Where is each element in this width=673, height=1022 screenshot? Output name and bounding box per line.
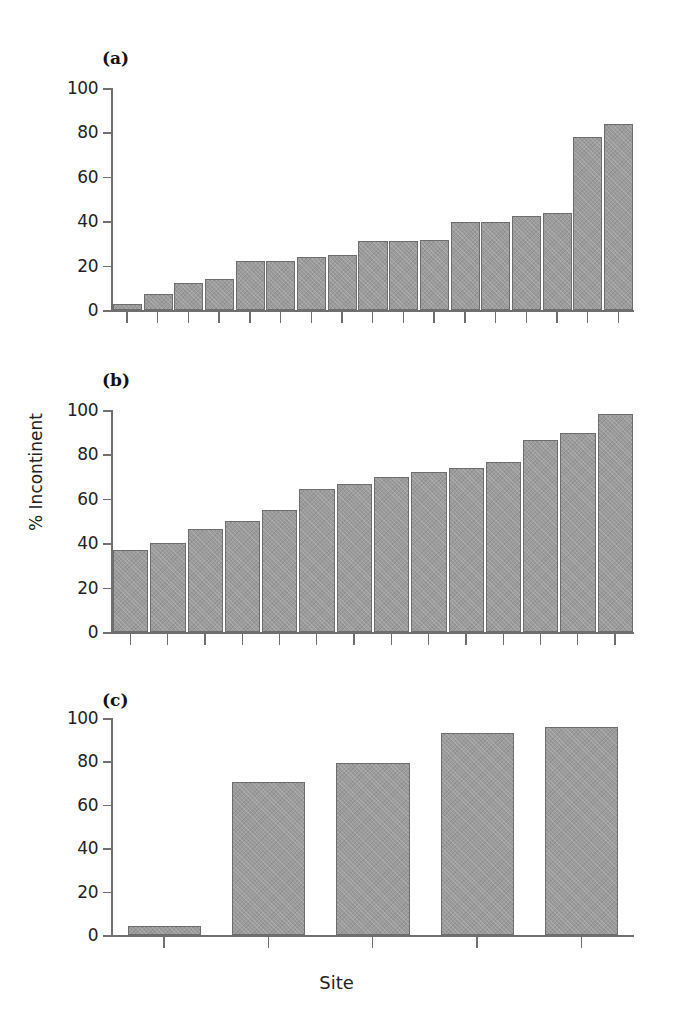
bar [174,283,203,310]
x-tick-mark [503,634,504,645]
bar [336,763,409,936]
y-tick-mark [103,805,112,807]
x-tick-mark [279,634,280,645]
x-tick-mark [403,312,404,323]
y-tick-mark [103,221,112,223]
panel-b: (b)020406080100 [0,362,673,662]
bar [441,733,514,935]
bar [328,255,357,311]
x-tick-mark [341,312,342,323]
x-tick-mark [188,312,189,323]
y-tick-mark [103,848,112,850]
x-tick-mark [428,634,429,645]
bar [545,727,618,935]
panel-label-a: (a) [102,48,129,68]
y-tick-label: 60 [46,489,98,509]
bar [604,124,633,310]
y-tick-label: 0 [46,622,98,642]
figure-bar-chart-incontinence: (a)020406080100 (b)020406080100 (c)02040… [0,0,673,1022]
bar [297,257,326,310]
y-tick-label: 0 [46,300,98,320]
x-tick-mark [577,634,578,645]
x-tick-mark [130,634,131,645]
y-tick-label: 0 [46,925,98,945]
bar [337,484,372,632]
x-tick-mark [372,312,373,323]
x-tick-mark [540,634,541,645]
bar [225,521,260,632]
y-tick-label: 100 [46,400,98,420]
y-tick-mark [103,310,112,312]
y-tick-mark [103,410,112,412]
bar [449,468,484,632]
y-tick-label: 40 [46,533,98,553]
y-tick-label: 100 [46,78,98,98]
x-tick-mark [618,312,619,323]
x-tick-mark [526,312,527,323]
bar [543,213,572,310]
bar-series [112,410,634,632]
y-tick-mark [103,266,112,268]
bar [205,279,234,310]
bar [150,543,185,632]
x-tick-mark [280,312,281,323]
x-tick-mark [587,312,588,323]
x-axis-spine [111,632,634,634]
bar [374,477,409,632]
panel-label-c: (c) [102,690,128,710]
y-axis-label: % Incontinent [26,392,46,552]
y-tick-label: 80 [46,751,98,771]
x-tick-mark [204,634,205,645]
y-tick-label: 40 [46,838,98,858]
x-tick-mark [464,312,465,323]
bar [358,241,387,310]
y-tick-mark [103,454,112,456]
bar [299,489,334,632]
x-tick-mark [218,312,219,323]
y-tick-mark [103,177,112,179]
x-tick-mark [311,312,312,323]
y-tick-label: 80 [46,122,98,142]
x-tick-mark [242,634,243,645]
bar-series [112,718,634,935]
y-tick-mark [103,632,112,634]
x-tick-mark [476,937,477,948]
y-tick-mark [103,88,112,90]
y-tick-label: 20 [46,578,98,598]
x-tick-mark [126,312,127,323]
bar [262,510,297,632]
bar-series [112,88,634,310]
x-tick-mark [556,312,557,323]
y-tick-label: 20 [46,882,98,902]
bar [486,462,521,632]
bar [451,222,480,310]
y-tick-mark [103,892,112,894]
x-tick-mark [167,634,168,645]
x-tick-mark [372,937,373,948]
bar [560,433,595,632]
bar [144,294,173,310]
y-tick-mark [103,588,112,590]
x-tick-mark [391,634,392,645]
bar [128,926,201,935]
bar [512,216,541,310]
y-tick-label: 40 [46,211,98,231]
panel-label-b: (b) [102,370,130,390]
x-tick-mark [163,937,164,948]
bar [188,529,223,632]
y-tick-label: 60 [46,167,98,187]
bar [573,137,602,310]
bar [113,304,142,310]
y-tick-label: 20 [46,256,98,276]
y-tick-mark [103,543,112,545]
x-tick-mark [249,312,250,323]
y-tick-mark [103,761,112,763]
x-tick-mark [157,312,158,323]
panel-c: (c)020406080100 [0,682,673,962]
x-tick-mark [433,312,434,323]
bar [266,261,295,310]
y-tick-mark [103,499,112,501]
bar [236,261,265,310]
bar [420,240,449,310]
y-tick-mark [103,718,112,720]
